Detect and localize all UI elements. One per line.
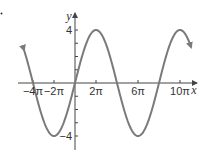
- x-tick-label: 10π: [170, 85, 190, 97]
- x-tick-label: −2π: [44, 85, 65, 97]
- x-tick-label: 6π: [131, 85, 145, 97]
- x-tick-label: −4π: [23, 85, 44, 97]
- sine-graph: −4π−2π2π6π10π 4−4 x y: [0, 0, 208, 164]
- y-tick-label: 4: [66, 24, 72, 36]
- x-axis-label: x: [190, 83, 197, 97]
- y-tick-label: −4: [59, 130, 72, 142]
- x-tick-labels: −4π−2π2π6π10π: [23, 85, 190, 97]
- stray-dot: [1, 13, 3, 15]
- x-tick-label: 2π: [89, 85, 103, 97]
- y-axis-label: y: [65, 9, 72, 23]
